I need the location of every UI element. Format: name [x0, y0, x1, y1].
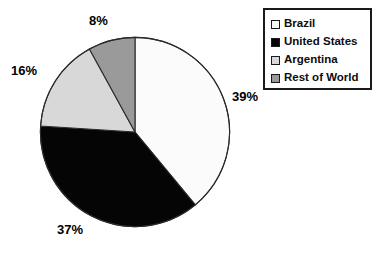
- legend-swatch-argentina: [271, 56, 280, 65]
- legend-item-argentina: Argentina: [271, 51, 366, 69]
- legend-item-brazil: Brazil: [271, 15, 366, 33]
- legend-swatch-rest-of-world: [271, 74, 280, 83]
- pie-svg: [39, 36, 231, 228]
- pie-chart-figure: 39% 37% 16% 8% Brazil United States Arge…: [0, 0, 387, 253]
- slice-label-argentina: 16%: [11, 63, 37, 78]
- legend-item-rest-of-world: Rest of World: [271, 69, 366, 87]
- slice-label-rest-of-world: 8%: [89, 13, 108, 28]
- legend-swatch-united-states: [271, 38, 280, 47]
- pie-slices: [40, 37, 229, 226]
- slice-label-united-states: 37%: [57, 222, 83, 237]
- slice-label-brazil: 39%: [232, 89, 258, 104]
- legend-swatch-brazil: [271, 20, 280, 29]
- legend: Brazil United States Argentina Rest of W…: [263, 8, 372, 90]
- pie-chart: [39, 36, 231, 228]
- legend-label-argentina: Argentina: [284, 54, 338, 66]
- legend-label-rest-of-world: Rest of World: [284, 72, 359, 84]
- legend-item-united-states: United States: [271, 33, 366, 51]
- legend-label-united-states: United States: [284, 36, 358, 48]
- legend-label-brazil: Brazil: [284, 18, 315, 30]
